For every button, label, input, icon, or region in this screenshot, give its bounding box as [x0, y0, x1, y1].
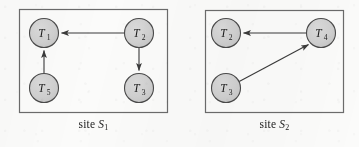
node-subscript: 1 — [47, 33, 51, 42]
node-s1-t5[interactable]: T 5 — [30, 74, 59, 103]
site-1-caption: site S1 — [19, 118, 168, 132]
edge-s2-t3-to-t4 — [239, 45, 308, 82]
site-2-caption-prefix: site — [260, 118, 277, 130]
node-s2-t4[interactable]: T 4 — [307, 19, 336, 48]
node-s2-t2[interactable]: T 2 — [212, 19, 241, 48]
node-s1-t2[interactable]: T 2 — [125, 19, 154, 48]
figure-container: T 1 T 2 T 5 T 3 — [0, 0, 359, 147]
site-2-edges — [239, 33, 308, 82]
site-1-group: T 1 T 2 T 5 T 3 — [20, 10, 168, 113]
site-2-group: T 2 T 4 T 3 — [206, 11, 344, 113]
node-subscript: 5 — [47, 88, 51, 97]
site-2-caption-subscript: 2 — [285, 123, 289, 132]
node-subscript: 4 — [324, 33, 328, 42]
node-subscript: 2 — [142, 33, 146, 42]
node-subscript: 2 — [229, 33, 233, 42]
node-subscript: 3 — [142, 88, 146, 97]
node-s2-t3[interactable]: T 3 — [212, 74, 241, 103]
site-1-caption-prefix: site — [79, 118, 96, 130]
site-1-edges — [44, 33, 139, 73]
node-s1-t3[interactable]: T 3 — [125, 74, 154, 103]
site-1-caption-subscript: 1 — [104, 123, 108, 132]
node-s1-t1[interactable]: T 1 — [30, 19, 59, 48]
site-2-caption: site S2 — [205, 118, 344, 132]
node-subscript: 3 — [229, 88, 233, 97]
